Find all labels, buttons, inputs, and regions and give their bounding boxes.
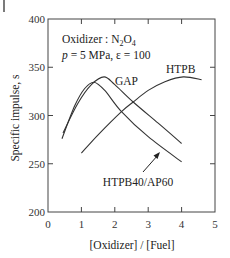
x-tick-5: 5 [212, 218, 218, 230]
x-tick-2: 2 [112, 218, 118, 230]
label-htpb: HTPB [166, 63, 196, 75]
x-axis-label: [Oxidizer] / [Fuel] [90, 239, 175, 251]
arrow-icon [143, 152, 160, 172]
y-tick-labels: 400 350 300 250 200 [29, 13, 46, 218]
label-gap: GAP [115, 75, 138, 87]
x-tick-labels: 0 1 2 3 4 5 [45, 218, 218, 230]
x-tick-3: 3 [145, 218, 151, 230]
x-tick-4: 4 [179, 218, 185, 230]
y-axis-label: Specific impulse, s [9, 74, 22, 162]
label-htpb40-ap60: HTPB40/AP60 [103, 176, 174, 188]
y-tick-400: 400 [29, 13, 46, 25]
conditions-annotation: p = 5 MPa, ε = 100 [61, 49, 151, 62]
y-tick-350: 350 [29, 61, 46, 73]
series-htpb-line [81, 77, 201, 153]
y-tick-300: 300 [29, 110, 46, 122]
x-tick-0: 0 [45, 218, 51, 230]
y-tick-250: 250 [29, 158, 46, 170]
y-tick-200: 200 [29, 206, 46, 218]
chart: 400 350 300 250 200 0 1 2 3 4 5 [Oxidize… [0, 0, 230, 258]
series-htpb40-ap60-line [62, 82, 182, 162]
oxidizer-annotation: Oxidizer : N2O4 [62, 33, 136, 48]
x-tick-1: 1 [79, 218, 85, 230]
